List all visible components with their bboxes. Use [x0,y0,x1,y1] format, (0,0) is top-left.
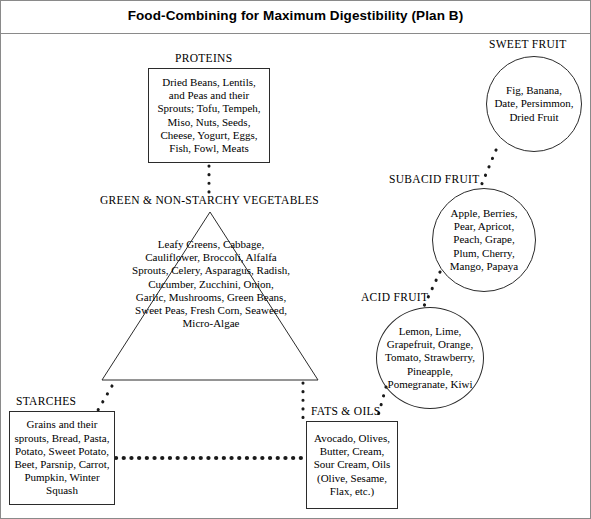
box-proteins: Dried Beans, Lentils, and Peas and their… [148,68,270,163]
box-fats-oils-items: Avocado, Olives, Butter, Cream, Sour Cre… [311,432,393,498]
circle-acid-fruit: Lemon, Lime, Grapefruit, Orange, Tomato,… [376,307,484,409]
label-proteins: PROTEINS [175,52,232,64]
page-title: Food-Combining for Maximum Digestibility… [0,8,591,23]
title-divider [0,33,591,34]
circle-subacid-fruit-items: Apple, Berries, Pear, Apricot, Peach, Gr… [433,207,535,273]
triangle-vegetables-items: Leafy Greens, Cabbage, Cauliflower, Broc… [132,238,290,330]
connector-sweetfruit-subacidfruit [481,150,496,186]
circle-sweet-fruit: Fig, Banana, Date, Persimmon, Dried Frui… [486,56,582,152]
box-proteins-items: Dried Beans, Lentils, and Peas and their… [153,76,265,155]
connector-vegetables-starches [98,386,112,410]
diagram-page: Food-Combining for Maximum Digestibility… [0,0,591,519]
label-fats-oils: FATS & OILS [311,405,381,417]
circle-subacid-fruit: Apple, Berries, Pear, Apricot, Peach, Gr… [432,188,536,292]
label-acid-fruit: ACID FRUIT [361,291,428,303]
circle-sweet-fruit-items: Fig, Banana, Date, Persimmon, Dried Frui… [487,84,581,124]
circle-acid-fruit-items: Lemon, Lime, Grapefruit, Orange, Tomato,… [377,325,483,391]
label-vegetables: GREEN & NON-STARCHY VEGETABLES [100,194,319,206]
label-sweet-fruit: SWEET FRUIT [489,38,567,50]
box-starches-items: Grains and their sprouts, Bread, Pasta, … [14,418,110,497]
label-starches: STARCHES [16,395,76,407]
box-starches: Grains and their sprouts, Bread, Pasta, … [9,411,115,505]
label-subacid-fruit: SUBACID FRUIT [389,173,479,185]
box-fats-oils: Avocado, Olives, Butter, Cream, Sour Cre… [306,421,398,509]
